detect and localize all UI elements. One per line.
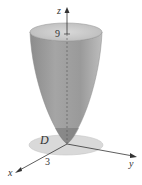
x-axis-label: x xyxy=(7,167,13,178)
paraboloid-diagram: z 9 D 3 x y xyxy=(0,0,142,185)
x-axis-arrow-icon xyxy=(15,167,22,173)
height-tick-label: 9 xyxy=(55,28,60,39)
region-label: D xyxy=(39,133,49,147)
z-axis-arrow-icon xyxy=(65,7,70,13)
paraboloid-rim xyxy=(30,23,102,41)
radius-tick-label: 3 xyxy=(45,156,50,167)
paraboloid-surface xyxy=(30,32,102,144)
y-axis-label: y xyxy=(128,158,134,169)
z-axis-label: z xyxy=(56,5,61,16)
